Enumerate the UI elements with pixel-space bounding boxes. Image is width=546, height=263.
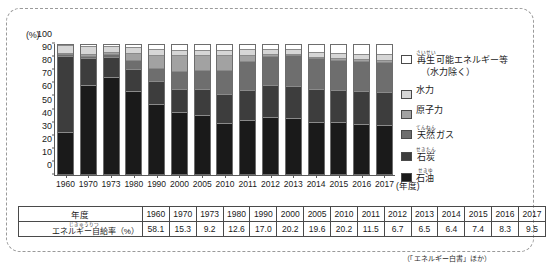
bar-segment — [217, 56, 232, 71]
bar-segment — [354, 92, 369, 125]
legend-label: 天然てんねんガス — [416, 125, 454, 140]
table-header-year: 年度 — [19, 207, 143, 222]
bar-segment — [58, 57, 73, 132]
x-axis-tick-mark — [111, 175, 112, 178]
x-axis-tick-mark — [202, 175, 203, 178]
stacked-bar — [103, 44, 120, 175]
bar-column: 1980 — [125, 44, 142, 175]
x-axis-tick-label: 1980 — [124, 179, 143, 189]
bar-segment — [240, 62, 255, 91]
legend-label-ruby: 天然てんねん — [416, 130, 436, 140]
x-axis-tick-mark — [339, 175, 340, 178]
x-axis-tick-mark — [362, 175, 363, 178]
x-axis-tick-label: 2005 — [193, 179, 212, 189]
bar-segment — [377, 126, 392, 174]
legend-swatch-natural-gas — [401, 130, 412, 139]
stacked-bar-chart: (%) 0102030405060708090100 1960197019731… — [22, 30, 397, 198]
bar-segment — [149, 82, 164, 104]
bar-segment — [195, 90, 210, 116]
y-axis-tick-label: 50 — [30, 95, 52, 105]
bar-segment — [195, 56, 210, 71]
x-axis-tick-label: 2010 — [216, 179, 235, 189]
bar-segment — [286, 87, 301, 119]
x-axis-tick-label: 2011 — [239, 179, 257, 189]
bar-segment — [286, 56, 301, 86]
legend-swatch-coal — [401, 152, 412, 161]
bar-segment — [331, 61, 346, 91]
bar-segment — [240, 91, 255, 121]
y-axis-tick-label: 90 — [30, 42, 52, 52]
table-cell-year: 1990 — [250, 207, 277, 222]
bar-segment — [149, 69, 164, 83]
legend-label-wrap: 再生さいせい可能エネルギー等（水力除く） — [416, 50, 508, 78]
table-header-rate: エネルギー自給率じきゅうりつ（%） — [19, 222, 143, 237]
bar-segment — [217, 71, 232, 95]
legend-item-nuclear: 原子力 — [401, 105, 537, 119]
x-axis-tick-label: 1973 — [102, 179, 121, 189]
x-axis-tick-label: 2014 — [307, 179, 326, 189]
bar-segment — [172, 56, 187, 72]
bar-segment — [172, 72, 187, 89]
legend-item-coal: 石炭せきたん — [401, 147, 537, 162]
legend-swatch-nuclear — [401, 110, 412, 119]
y-axis-tick-label: 100 — [30, 29, 52, 39]
x-axis-tick-mark — [179, 175, 180, 178]
bar-segment — [126, 92, 141, 174]
y-axis-tick-label: 0 — [30, 160, 52, 170]
bar-segment — [217, 95, 232, 124]
legend-label-ruby: 石炭せきたん — [416, 152, 436, 162]
legend-item-hydro: 水力 — [401, 85, 537, 99]
bar-segment — [217, 124, 232, 174]
bar-segment — [58, 46, 73, 54]
table-cell-year: 2013 — [411, 207, 438, 222]
table-cell-year: 2005 — [304, 207, 331, 222]
bar-column: 1973 — [103, 44, 120, 175]
table-cell-rate: 58.1 — [142, 222, 169, 237]
legend-label: 再生さいせい可能エネルギー等 — [416, 50, 508, 65]
y-axis-tick-label: 80 — [30, 55, 52, 65]
bar-group: 1960197019731980199020002005201020112012… — [55, 44, 395, 175]
y-axis-tick-label: 30 — [30, 121, 52, 131]
table-cell-year: 2010 — [331, 207, 358, 222]
bar-segment — [331, 123, 346, 174]
x-axis-tick-label: 2016 — [352, 179, 371, 189]
x-axis-tick-mark — [293, 175, 294, 178]
bar-segment — [309, 59, 324, 90]
stacked-bar — [330, 44, 347, 175]
table-cell-rate: 17.0 — [250, 222, 277, 237]
bar-segment — [354, 125, 369, 174]
bar-segment — [377, 93, 392, 125]
bar-segment — [309, 123, 324, 174]
y-axis-tick-label: 70 — [30, 68, 52, 78]
legend-label: 原子力 — [416, 105, 443, 115]
legend-item-natural-gas: 天然てんねんガス — [401, 125, 537, 140]
x-axis-tick-label: 1970 — [79, 179, 98, 189]
x-axis-tick-mark — [271, 175, 272, 178]
chart-legend: 再生さいせい可能エネルギー等（水力除く）水力原子力天然てんねんガス石炭せきたん石… — [401, 50, 537, 189]
y-axis-tick-label: 10 — [30, 147, 52, 157]
bar-column: 1970 — [80, 44, 97, 175]
stacked-bar — [148, 44, 165, 175]
x-axis-tick-label: 2017 — [375, 179, 394, 189]
table-cell-year: 2012 — [384, 207, 411, 222]
x-axis-tick-mark — [157, 175, 158, 178]
y-axis-tick-label: 20 — [30, 134, 52, 144]
x-axis-tick-mark — [248, 175, 249, 178]
legend-label-ruby: 再生さいせい — [416, 55, 436, 65]
bar-column: 2000 — [171, 44, 188, 175]
legend-label-wrap: 石油せきゆ — [416, 168, 434, 183]
bar-segment — [240, 121, 255, 174]
bar-segment — [172, 90, 187, 113]
table-cell-rate: 20.2 — [277, 222, 304, 237]
table-cell-year: 2000 — [277, 207, 304, 222]
bar-segment — [104, 58, 119, 78]
legend-label-ruby: 石油せきゆ — [416, 173, 434, 183]
bar-segment — [81, 47, 96, 55]
stacked-bar — [171, 44, 188, 175]
table-cell-year: 2016 — [492, 207, 519, 222]
bar-column: 2010 — [216, 44, 233, 175]
bar-segment — [286, 119, 301, 174]
bar-segment — [263, 118, 278, 174]
legend-item-oil: 石油せきゆ — [401, 168, 537, 183]
stacked-bar — [353, 44, 370, 175]
